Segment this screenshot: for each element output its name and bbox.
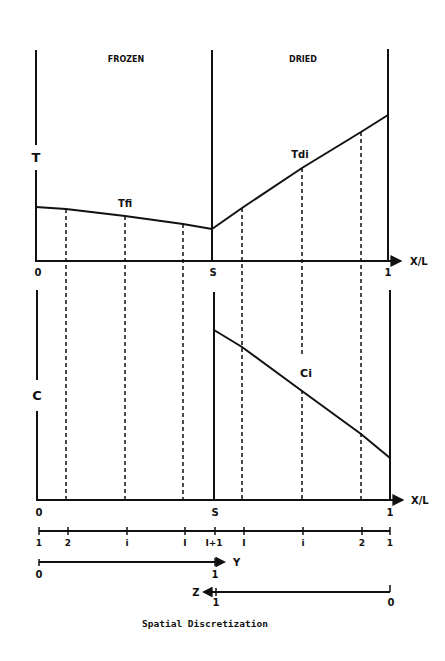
figure-caption: Spatial Discretization — [142, 618, 268, 629]
bottom-x-axis-label: X/L — [411, 495, 429, 506]
z-axis-label: Z — [192, 587, 199, 598]
node-label: i — [301, 538, 304, 548]
bottom-y-axis-label: C — [32, 388, 42, 403]
node-index-axis: 1 2 i I I+1 I i 2 1 — [36, 527, 393, 548]
bottom-x-tick-s: S — [211, 507, 218, 518]
frozen-region-label: FROZEN — [108, 55, 144, 64]
node-label: 2 — [359, 538, 365, 548]
node-label: I+1 — [205, 538, 222, 548]
node-label: 2 — [65, 538, 71, 548]
bottom-panel: C X/L 0 S 1 Ci — [32, 290, 429, 518]
spatial-discretization-figure: FROZEN DRIED T X/L 0 S 1 Tfi Tdi — [0, 0, 445, 661]
top-x-tick-1: 1 — [385, 267, 392, 278]
top-x-tick-s: S — [209, 267, 216, 278]
top-x-axis-label: X/L — [410, 256, 428, 267]
node-label: I — [183, 538, 186, 548]
y-axis-end: 1 — [212, 569, 219, 580]
node-label: i — [125, 538, 128, 548]
top-x-tick-0: 0 — [35, 267, 42, 278]
y-axis-start: 0 — [36, 569, 43, 580]
dried-concentration-label: Ci — [300, 367, 312, 380]
frozen-temperature-label: Tfi — [118, 198, 132, 209]
z-axis-end: 0 — [388, 597, 395, 608]
frozen-temperature-curve — [36, 207, 212, 229]
node-label: 1 — [36, 538, 42, 548]
top-y-axis-label: T — [32, 150, 41, 165]
bottom-x-tick-0: 0 — [36, 507, 43, 518]
dried-region-label: DRIED — [289, 55, 317, 64]
dried-temperature-label: Tdi — [291, 149, 308, 160]
z-coordinate-axis: Z 1 0 — [192, 585, 394, 608]
top-panel: T X/L 0 S 1 Tfi Tdi — [32, 49, 429, 278]
y-coordinate-axis: Y 0 1 — [36, 557, 241, 580]
y-axis-label: Y — [232, 557, 241, 568]
bottom-x-tick-1: 1 — [387, 507, 394, 518]
node-label: 1 — [387, 538, 393, 548]
node-label: I — [242, 538, 245, 548]
z-axis-start: 1 — [213, 597, 220, 608]
